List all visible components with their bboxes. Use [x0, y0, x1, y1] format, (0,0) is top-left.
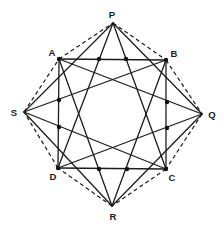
dashed-segment-ds [24, 112, 58, 168]
point-dot [165, 126, 169, 130]
point-dot [125, 167, 129, 171]
label-d: D [50, 171, 57, 182]
segment-qr [112, 114, 202, 206]
dashed-segment-rd [58, 168, 112, 206]
point-dot [56, 166, 60, 170]
segment-qa [59, 59, 202, 114]
label-r: R [110, 211, 117, 222]
point-dot [57, 125, 61, 129]
point-dot [97, 167, 101, 171]
point-dot [124, 57, 128, 61]
label-c: C [169, 172, 176, 183]
point-dot [57, 98, 61, 102]
segment-sb [24, 60, 166, 112]
label-p: P [109, 9, 116, 20]
dashed-segment-qc [166, 114, 202, 169]
intersection-dots [56, 57, 169, 171]
label-a: A [49, 47, 56, 58]
point-dot [97, 57, 101, 61]
dashed-segment-cr [112, 169, 166, 206]
segment-rs [24, 112, 112, 206]
dashed-segment-bq [166, 60, 202, 114]
segment-da [58, 59, 59, 168]
dashed-segment-ap [59, 23, 113, 59]
segment-sp [24, 23, 113, 112]
segment-qd [58, 114, 202, 168]
label-b: B [171, 48, 178, 59]
dashed-segment-pb [113, 23, 166, 60]
label-q: Q [208, 109, 215, 120]
point-dot [164, 167, 168, 171]
segment-ab [59, 59, 166, 60]
dashed-segment-sa [24, 59, 59, 112]
segment-pq [113, 23, 202, 114]
segment-pd [58, 23, 113, 168]
point-dot [164, 58, 168, 62]
segment-ra [59, 59, 112, 206]
vertex-labels: P A B S Q D C R [11, 9, 216, 222]
geometry-diagram: P A B S Q D C R [0, 0, 224, 230]
segment-pc [113, 23, 166, 169]
point-dot [57, 57, 61, 61]
point-dot [165, 100, 169, 104]
label-s: S [11, 107, 17, 118]
